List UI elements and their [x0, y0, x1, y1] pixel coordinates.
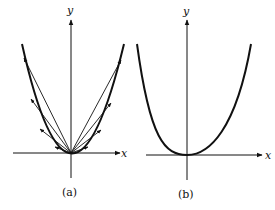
panel-a: x y (a): [13, 4, 128, 199]
figure: x y (a) x y (b): [0, 0, 275, 210]
x-axis-label: x: [121, 147, 128, 160]
parabola-curve: [22, 44, 124, 154]
y-axis-label: y: [182, 5, 190, 18]
parabola-curve: [137, 44, 251, 155]
y-axis-label: y: [66, 4, 74, 17]
x-axis-label: x: [265, 149, 272, 162]
panel-a-caption: (a): [62, 186, 77, 199]
panel-b-caption: (b): [178, 188, 194, 201]
panel-b: x y (b): [137, 5, 272, 201]
